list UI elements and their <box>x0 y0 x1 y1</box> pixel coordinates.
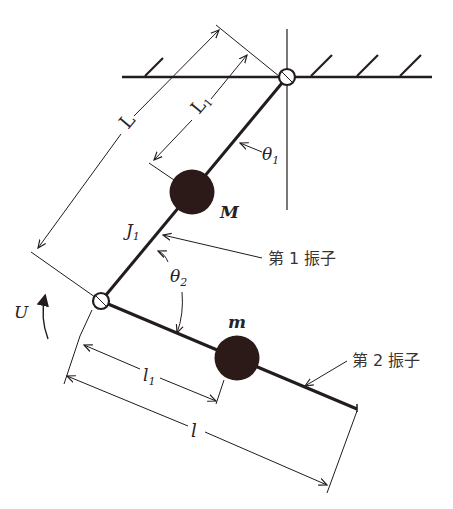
pendulum2-leader <box>305 361 347 386</box>
hatch-mark <box>145 58 163 76</box>
theta1-arrow <box>240 143 262 152</box>
theta2-arc-upper <box>158 251 168 262</box>
mass-m <box>215 336 260 381</box>
label-l: l <box>191 420 197 441</box>
pendulum1-leader <box>163 235 262 258</box>
pivot-hinge <box>279 69 295 85</box>
label-U: U <box>14 302 29 322</box>
hatch-mark <box>400 55 421 76</box>
label-theta1: θ1 <box>262 144 279 167</box>
hatch-mark <box>311 55 332 76</box>
label-J1: J1 <box>123 220 140 243</box>
label-L: L <box>114 108 139 132</box>
label-M: M <box>219 202 240 222</box>
ceiling <box>122 55 432 77</box>
double-pendulum-diagram: L L1 θ1 M J1 θ2 第 1 振子 U m 第 2 振子 l1 l <box>0 0 453 509</box>
theta2-arc-lower <box>177 292 182 333</box>
label-pendulum2: 第 2 振子 <box>352 351 420 370</box>
label-L1: L1 <box>186 90 216 119</box>
label-m: m <box>228 312 246 332</box>
mass-M <box>170 170 215 215</box>
dimension-L1 <box>149 55 247 180</box>
hatch-mark <box>357 55 378 76</box>
joint-hinge <box>93 293 109 309</box>
torque-arrow-icon <box>43 296 48 339</box>
dimension-l <box>64 336 357 493</box>
label-pendulum1: 第 1 振子 <box>268 249 336 268</box>
dimension-L <box>31 25 290 302</box>
label-l1: l1 <box>143 365 155 388</box>
label-theta2: θ2 <box>170 266 187 289</box>
